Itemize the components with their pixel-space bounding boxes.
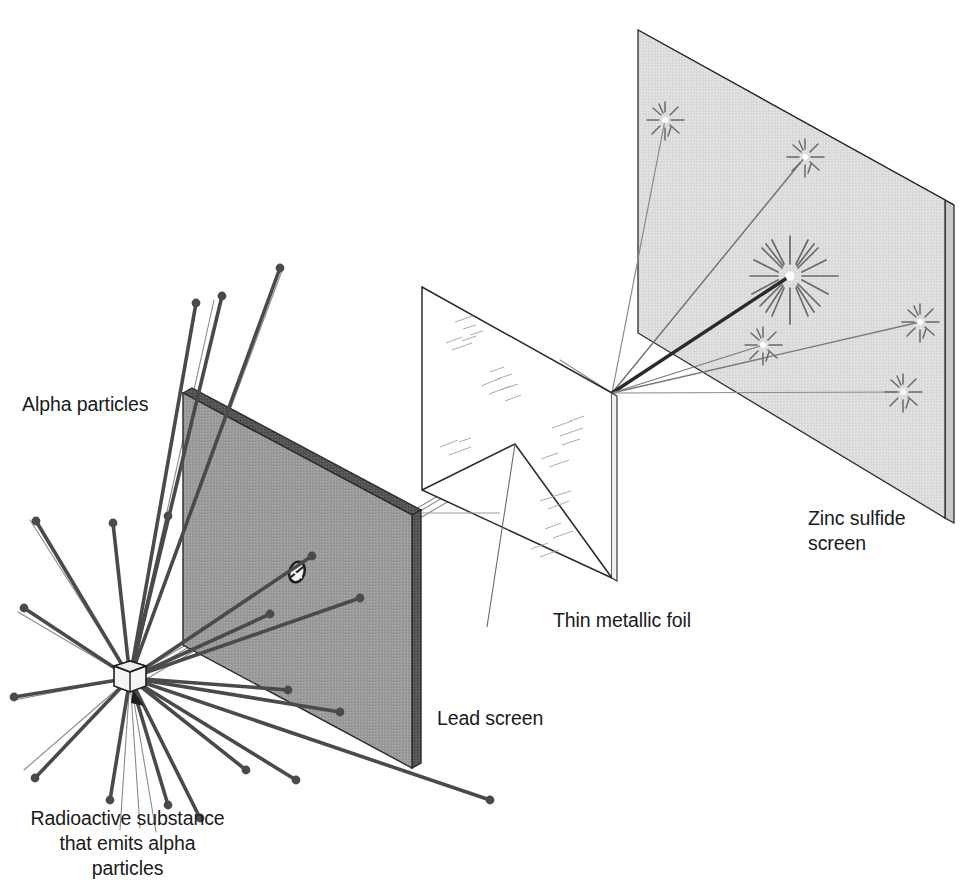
- label-alpha-particles: Alpha particles: [22, 392, 148, 417]
- zinc-sulfide-screen: [638, 30, 954, 523]
- label-thin-metallic-foil: Thin metallic foil: [553, 608, 691, 633]
- label-lead-screen: Lead screen: [437, 706, 543, 731]
- lead-screen-right-edge: [412, 510, 421, 768]
- label-radioactive-source: Radioactive substance that emits alpha p…: [10, 806, 245, 881]
- rutherford-experiment-illustration: [0, 0, 976, 886]
- thin-foil-face: [422, 287, 612, 578]
- label-zinc-sulfide-screen: Zinc sulfide screen: [808, 506, 958, 556]
- thin-metallic-foil: [422, 287, 617, 581]
- diagram-canvas: Alpha particles Radioactive substance th…: [0, 0, 976, 886]
- zinc-screen-right-edge: [945, 200, 954, 523]
- lead-screen: [183, 388, 421, 768]
- thin-foil-edge: [612, 393, 617, 581]
